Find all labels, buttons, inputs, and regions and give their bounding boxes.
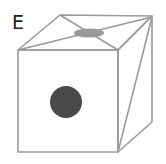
top-face-dot xyxy=(74,28,104,37)
cube-diagram xyxy=(0,0,166,164)
right-face-diagonal xyxy=(118,17,152,152)
front-face-dot xyxy=(50,86,82,118)
